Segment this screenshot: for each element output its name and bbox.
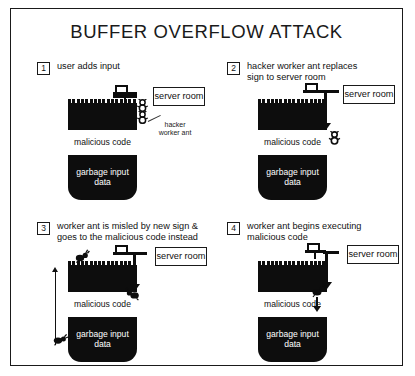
hacker-ant-label: hacker worker ant xyxy=(147,121,203,137)
panel-4-caption: 4 worker ant begins executing malicious … xyxy=(227,221,361,242)
buffer-serrated-edge-2 xyxy=(258,99,327,103)
buffer-serrated-edge-4 xyxy=(258,261,327,265)
panel-4-caption-text: worker ant begins executing malicious co… xyxy=(247,221,361,242)
panel-2-caption-text: hacker worker ant replaces sign to serve… xyxy=(247,61,357,82)
signpost-arm-3 xyxy=(113,252,135,255)
panel-4-number: 4 xyxy=(227,222,240,235)
ant-icon-3-mid xyxy=(125,287,140,301)
page-title: BUFFER OVERFLOW ATTACK xyxy=(11,21,402,43)
server-room-box-4: server room xyxy=(347,245,399,264)
garbage-input-band-2: garbage input data xyxy=(258,156,327,200)
panel-1-caption: 1 user adds input xyxy=(37,61,120,75)
ant-icon-3-top xyxy=(75,249,90,263)
panel-4: 4 worker ant begins executing malicious … xyxy=(227,221,415,373)
buffer-top-black-2 xyxy=(258,99,327,129)
buffer-stack-2: malicious code garbage input data xyxy=(258,99,327,200)
ant-icon-2 xyxy=(328,131,341,145)
panel-1: 1 user adds input malicious code garbage… xyxy=(37,61,222,209)
buffer-top-black-1 xyxy=(68,99,137,129)
redirect-arrow-icon-2-horizontal xyxy=(325,90,339,93)
signpost-arm-2 xyxy=(303,90,325,93)
server-room-box-1: server room xyxy=(153,87,205,106)
panel-3-number: 3 xyxy=(37,222,50,235)
buffer-stack-1: malicious code garbage input data xyxy=(68,99,137,200)
server-room-box-3: server room xyxy=(155,247,207,266)
panel-1-number: 1 xyxy=(37,62,50,75)
redirect-arrow-icon-3-vertical xyxy=(133,252,136,286)
signpost-stem-4 xyxy=(314,252,316,259)
garbage-input-band-4: garbage input data xyxy=(258,318,327,362)
panel-3: 3 worker ant is misled by new sign & goe… xyxy=(37,221,222,373)
panel-2-number: 2 xyxy=(227,62,240,75)
panel-2: 2 hacker worker ant replaces sign to ser… xyxy=(227,61,415,209)
ant-icon-4 xyxy=(311,283,327,298)
server-room-box-2: server room xyxy=(343,85,395,104)
redirect-arrow-icon-4-vertical xyxy=(325,251,328,284)
panel-2-caption: 2 hacker worker ant replaces sign to ser… xyxy=(227,61,357,82)
malicious-code-band-2: malicious code xyxy=(258,129,327,156)
garbage-input-band-1: garbage input data xyxy=(68,156,137,200)
ant-icon-3-bottom xyxy=(53,333,69,346)
redirect-arrow-icon-2-vertical xyxy=(324,90,327,125)
arrow-down-icon-4 xyxy=(312,297,321,313)
diagram-frame: BUFFER OVERFLOW ATTACK 1 user adds input… xyxy=(10,8,403,366)
panel-3-caption: 3 worker ant is misled by new sign & goe… xyxy=(37,221,198,242)
redirect-arrow-icon-2-head xyxy=(321,123,331,130)
arrow-down-tip-4 xyxy=(313,306,321,312)
garbage-input-band-3: garbage input data xyxy=(68,318,137,362)
buffer-stack-3: malicious code garbage input data xyxy=(68,261,137,362)
signpost-stem-1 xyxy=(124,96,126,105)
panel-1-caption-text: user adds input xyxy=(57,61,120,72)
malicious-code-band-1: malicious code xyxy=(68,129,137,156)
panel-3-caption-text: worker ant is misled by new sign & goes … xyxy=(57,221,198,242)
